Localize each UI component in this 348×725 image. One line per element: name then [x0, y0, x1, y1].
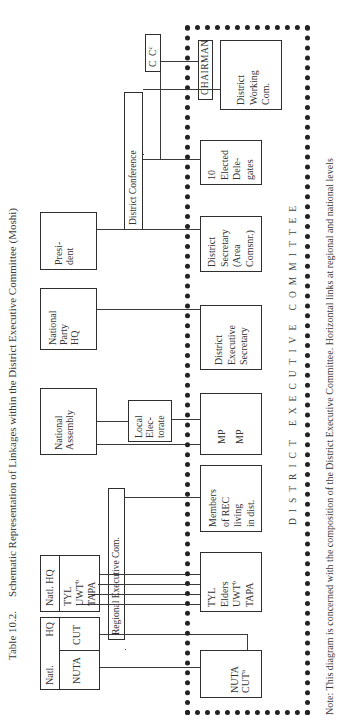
hq-label: HQ [44, 622, 55, 636]
cut-label: CUT [71, 625, 82, 645]
nuta-label: NUTA [71, 657, 82, 684]
district-conference-box: District Conference [124, 92, 143, 230]
natl-nuta-cut-box: Natl. HQ NUTA CUT [40, 617, 100, 690]
table-number: Table 10.2. [6, 611, 18, 660]
mp-box: MP MP [200, 393, 262, 455]
natl-label: Natl. [44, 665, 55, 685]
tyl-label: TYL [62, 580, 74, 606]
local-electorate-box: Local Elec- torate [128, 400, 172, 442]
chairman-box: CHAIRMAN [198, 40, 213, 100]
elected-delegates-box: 10 Elected Dele- gates [200, 140, 262, 185]
mass-orgs-box: TYL Elders UWTb TAPA [200, 552, 262, 612]
cc-box: C Cc [145, 34, 161, 72]
table-caption: Schematic Representation of Linkages wit… [6, 208, 18, 597]
rotated-page: Table 10.2.Schematic Representation of L… [0, 0, 348, 725]
footnote: Note: This diagram is concerned with the… [324, 158, 335, 715]
regional-executive-com-box: Regional Executive Com. [108, 488, 125, 640]
national-party-hq-box: National Party HQ [40, 288, 97, 350]
natl-hq-label: Natl. HQ [44, 569, 55, 606]
table-title: Table 10.2.Schematic Representation of L… [6, 208, 18, 660]
uwt-label: UWT [74, 583, 85, 606]
president-box: Presi- dent [40, 212, 97, 270]
national-assembly-box: National Assembly [40, 388, 97, 455]
nuta-cut-box: NUTA CUTa [200, 650, 262, 698]
district-secretary-box: District Secretary (Area Comsnr.) [200, 216, 262, 272]
dec-label: DISTRICT EXECUTIVE COMMITTEE [288, 200, 298, 525]
district-exec-secretary-box: District Executive Secretary [200, 305, 262, 370]
district-working-com-box: District Working Com. [220, 40, 282, 110]
members-of-rec-box: Members of REC living in dist. [200, 465, 262, 532]
